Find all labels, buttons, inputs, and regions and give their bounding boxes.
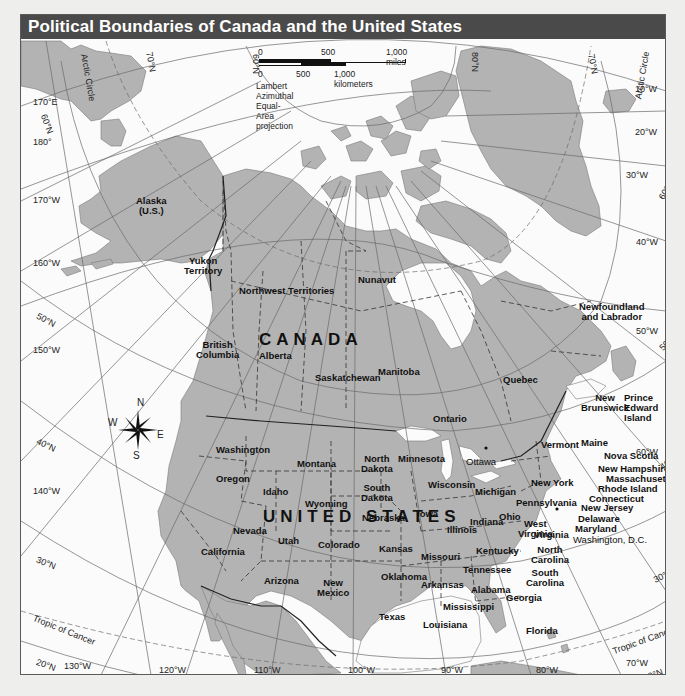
label-north-carolina: NorthCarolina — [531, 545, 569, 565]
label-arkansas: Arkansas — [421, 580, 464, 590]
label-nevada: Nevada — [233, 526, 267, 536]
label-wisconsin: Wisconsin — [428, 480, 475, 490]
label-florida: Florida — [526, 626, 558, 636]
grid-90w: 90°W — [441, 665, 463, 675]
label-alberta: Alberta — [259, 351, 292, 361]
grid-170w: 170°W — [33, 195, 60, 205]
label-yukon: YukonTerritory — [184, 256, 222, 276]
label-south-dakota: SouthDakota — [361, 483, 393, 503]
label-south-carolina: SouthCarolina — [526, 568, 564, 588]
label-nunavut: Nunavut — [358, 275, 396, 285]
label-alaska: Alaska(U.S.) — [136, 196, 167, 216]
compass-e: E — [157, 429, 164, 440]
grid-20w: 20°W — [635, 127, 657, 137]
label-new-york: New York — [531, 478, 573, 488]
label-ottawa: Ottawa — [466, 457, 496, 467]
label-utah: Utah — [278, 536, 299, 546]
label-pennsylvania: Pennsylvania — [516, 498, 577, 508]
ottawa-dot — [484, 446, 487, 449]
label-canada: CANADA — [259, 330, 363, 350]
grid-80w: 80°W — [536, 665, 558, 675]
grid-140w: 140°W — [33, 486, 60, 496]
label-manitoba: Manitoba — [378, 367, 420, 377]
compass-s: S — [133, 450, 140, 461]
scale-km-1000: 1,000 kilometers — [334, 69, 373, 89]
label-new-jersey: New Jersey — [581, 503, 633, 513]
scale-km-500: 500 — [296, 69, 310, 79]
label-arizona: Arizona — [264, 576, 299, 586]
label-michigan: Michigan — [475, 487, 516, 497]
grid-100w: 100°W — [348, 665, 375, 675]
label-nebraska: Nebraska — [362, 513, 405, 523]
compass-rose: N S W E — [113, 405, 163, 459]
grid-180: 180° — [33, 137, 52, 147]
grid-50w: 50°W — [636, 326, 658, 336]
label-vermont: Vermont — [541, 440, 579, 450]
label-idaho: Idaho — [263, 487, 288, 497]
grid-70w: 70°W — [626, 658, 648, 668]
label-iowa: Iowa — [417, 509, 438, 519]
label-georgia: Georgia — [506, 593, 542, 603]
grid-80n: 80°N — [470, 52, 480, 72]
label-mississippi: Mississippi — [443, 602, 494, 612]
grid-80n-left: 60°N — [251, 54, 261, 74]
label-nwt: Northwest Territories — [239, 286, 334, 296]
label-kansas: Kansas — [379, 544, 413, 554]
grid-150w: 150°W — [33, 345, 60, 355]
label-washington: Washington — [216, 445, 270, 455]
map-title: Political Boundaries of Canada and the U… — [21, 15, 665, 39]
label-colorado: Colorado — [318, 540, 360, 550]
label-washington-dc: Washington, D.C. — [573, 535, 647, 545]
grid-120w: 120°W — [159, 665, 186, 675]
scale-miles-500: 500 — [321, 47, 335, 57]
compass-n: N — [137, 397, 144, 408]
label-kentucky: Kentucky — [476, 546, 519, 556]
label-minnesota: Minnesota — [398, 454, 445, 464]
label-texas: Texas — [379, 612, 405, 622]
label-alabama: Alabama — [471, 585, 511, 595]
projection-label: Lambert Azimuthal Equal-Area projection — [256, 81, 293, 131]
label-tennessee: Tennessee — [463, 565, 511, 575]
label-pei: PrinceEdwardIsland — [624, 393, 658, 423]
label-west-virginia: WestVirginia — [518, 519, 553, 539]
label-saskatchewan: Saskatchewan — [315, 373, 380, 383]
label-maine: Maine — [581, 438, 608, 448]
map-frame: Political Boundaries of Canada and the U… — [20, 14, 666, 675]
grid-130w: 130°W — [64, 661, 91, 671]
grid-60w: 60°W — [636, 447, 658, 457]
label-bc: BritishColumbia — [196, 340, 239, 360]
compass-icon — [113, 405, 163, 455]
label-oregon: Oregon — [216, 474, 250, 484]
label-wyoming: Wyoming — [305, 499, 348, 509]
grid-110w: 110°W — [254, 665, 280, 675]
label-missouri: Missouri — [421, 552, 460, 562]
grid-30w: 30°W — [626, 170, 648, 180]
grid-160w: 160°W — [33, 258, 60, 268]
grid-170e: 170°E — [33, 97, 58, 107]
scale-miles-1000: 1,000 miles — [386, 47, 407, 67]
label-new-brunswick: NewBrunswick — [581, 393, 629, 413]
label-california: California — [201, 547, 245, 557]
label-louisiana: Louisiana — [423, 620, 467, 630]
label-new-mexico: NewMexico — [317, 578, 349, 598]
label-quebec: Quebec — [503, 375, 538, 385]
label-newfoundland: Newfoundlandand Labrador — [579, 302, 644, 322]
label-ontario: Ontario — [433, 414, 467, 424]
grid-40w: 40°W — [636, 237, 658, 247]
label-maryland: Maryland — [575, 524, 617, 534]
label-north-dakota: NorthDakota — [361, 454, 393, 474]
label-montana: Montana — [297, 459, 336, 469]
compass-w: W — [108, 417, 117, 428]
